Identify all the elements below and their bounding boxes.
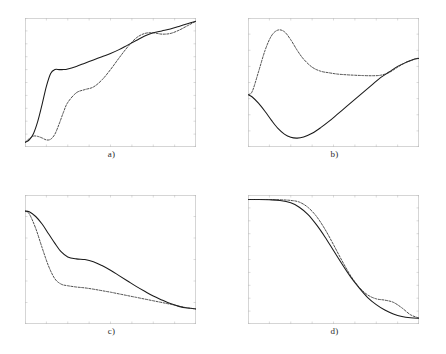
cut-off-caption-strip (0, 341, 446, 354)
chart-svg-d: 010020030040050060070080000.10.20.30.40.… (248, 195, 419, 324)
curve-d-solid (248, 199, 419, 318)
caption-ghost-text (0, 341, 446, 354)
panel-label-b: b) (223, 149, 446, 159)
curve-b-dashed (248, 30, 419, 95)
panel-b: 010020030040050060070080000.10.20.30.40.… (223, 0, 446, 177)
panel-label-d: d) (223, 326, 446, 336)
plot-area-c: 010020030040050060070080000.10.20.30.40.… (25, 195, 196, 324)
curve-c-dashed (25, 211, 196, 309)
curve-c-solid (25, 211, 196, 309)
plot-area-d: 010020030040050060070080000.10.20.30.40.… (248, 195, 419, 324)
chart-svg-a: 010020030040050060070080000.10.20.30.40.… (25, 18, 196, 147)
panel-a: 010020030040050060070080000.10.20.30.40.… (0, 0, 223, 177)
curve-d-dashed (248, 199, 419, 318)
chart-svg-c: 010020030040050060070080000.10.20.30.40.… (25, 195, 196, 324)
panel-label-c: c) (0, 326, 223, 336)
panel-label-a: a) (0, 149, 223, 159)
panel-d: 010020030040050060070080000.10.20.30.40.… (223, 177, 446, 354)
curve-a-dashed (25, 21, 196, 142)
figure-panel-grid: 010020030040050060070080000.10.20.30.40.… (0, 0, 446, 354)
curve-a-solid (25, 21, 196, 142)
chart-svg-b: 010020030040050060070080000.10.20.30.40.… (248, 18, 419, 147)
panel-c: 010020030040050060070080000.10.20.30.40.… (0, 177, 223, 354)
plot-area-b: 010020030040050060070080000.10.20.30.40.… (248, 18, 419, 147)
plot-area-a: 010020030040050060070080000.10.20.30.40.… (25, 18, 196, 147)
